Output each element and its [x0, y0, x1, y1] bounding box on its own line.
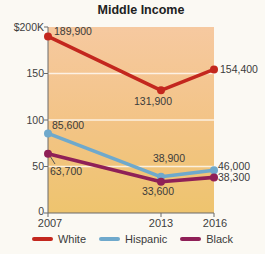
legend-item-white: White	[32, 233, 86, 245]
x-tick-label-2016: 2016	[203, 218, 227, 229]
y-tick-label-50: 50	[0, 161, 44, 172]
x-tick-label-2013: 2013	[149, 218, 173, 229]
y-tick-label-0: 0	[0, 206, 44, 217]
legend-item-hispanic: Hispanic	[99, 233, 167, 245]
legend: White Hispanic Black	[0, 233, 265, 245]
hispanic-line-swatch	[99, 237, 120, 241]
black-line-swatch	[180, 237, 201, 241]
data-label-hispanic-2013: 38,900	[153, 153, 185, 164]
y-tick-label-200k: $200K	[0, 22, 44, 33]
data-label-black-2013: 33,600	[142, 186, 174, 197]
white-line-swatch	[32, 237, 53, 241]
legend-item-black: Black	[180, 233, 233, 245]
data-label-white-2016: 154,400	[220, 64, 258, 75]
data-label-hispanic-2007: 85,600	[52, 120, 84, 131]
y-tick-label-100: 100	[0, 115, 44, 126]
data-label-white-2013: 131,900	[134, 96, 172, 107]
data-label-hispanic-2016: 46,000	[218, 161, 250, 172]
y-tick-label-150: 150	[0, 68, 44, 79]
x-tick-label-2007: 2007	[38, 218, 62, 229]
data-label-black-2007: 63,700	[50, 166, 82, 177]
legend-label-hispanic: Hispanic	[125, 233, 167, 245]
data-label-white-2007: 189,900	[54, 26, 92, 37]
legend-label-white: White	[58, 233, 86, 245]
data-label-black-2016: 38,300	[218, 172, 250, 183]
legend-label-black: Black	[206, 233, 233, 245]
middle-income-chart: Middle Income $200K 150 100 50 0 2007 20…	[0, 0, 265, 254]
